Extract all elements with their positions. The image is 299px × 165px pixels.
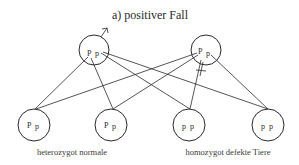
allele: p [206, 49, 210, 58]
offspring-2: P p [95, 109, 127, 141]
parent-male: P p [79, 28, 109, 65]
parent-female: P p [191, 35, 221, 76]
offspring-1: P p [18, 109, 50, 141]
offspring-4: p p [252, 109, 284, 141]
genetic-cross-diagram: a) positiver Fall P p P p P p [0, 0, 299, 165]
allele: p [190, 122, 194, 131]
offspring-circle [18, 109, 50, 141]
allele: p [261, 122, 265, 131]
inheritance-lines [35, 52, 268, 109]
allele: P [27, 121, 32, 130]
allele: P [198, 47, 203, 56]
parent-male-circle [79, 35, 109, 65]
offspring-3: p p [173, 109, 205, 141]
allele: p [35, 122, 39, 131]
male-symbol-icon [101, 28, 108, 37]
offspring-circle [173, 109, 205, 141]
allele: p [95, 49, 99, 58]
allele: P [87, 49, 92, 58]
diagram-title: a) positiver Fall [112, 8, 189, 22]
allele: p [269, 122, 273, 131]
offspring-circle [95, 109, 127, 141]
label-heterozygous-normal: heterozygot normale [37, 147, 107, 157]
allele: p [112, 122, 116, 131]
allele: P [104, 121, 109, 130]
offspring-circle [252, 109, 284, 141]
allele: p [182, 122, 186, 131]
label-homozygous-defective: homozygot defekte Tiere [186, 147, 271, 157]
